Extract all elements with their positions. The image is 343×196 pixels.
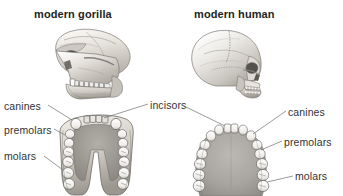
leader-canines-right bbox=[253, 111, 286, 134]
gorilla-skull-lateral-art bbox=[56, 29, 131, 99]
title-modern-gorilla: modern gorilla bbox=[34, 8, 112, 20]
leader-molars-right bbox=[267, 176, 293, 182]
label-premolars-human: premolars bbox=[284, 136, 332, 148]
label-molars-gorilla: molars bbox=[4, 150, 36, 162]
title-modern-human: modern human bbox=[194, 8, 275, 20]
label-canines-gorilla: canines bbox=[4, 100, 41, 112]
leader-incisors-left bbox=[104, 104, 148, 118]
leader-canines-left bbox=[48, 105, 72, 120]
comparative-dentition-figure: modern gorilla modern human canines prem… bbox=[0, 0, 343, 196]
label-incisors: incisors bbox=[150, 99, 186, 111]
leader-premolars-right bbox=[261, 141, 282, 150]
leader-molars-left bbox=[44, 156, 63, 170]
figure-artwork bbox=[0, 0, 343, 196]
gorilla-mandible-occlusal-art bbox=[60, 115, 133, 195]
leader-incisors-right bbox=[186, 107, 225, 126]
label-canines-human: canines bbox=[288, 106, 325, 118]
human-skull-lateral-art bbox=[192, 30, 261, 98]
human-palate-occlusal-art bbox=[193, 124, 269, 196]
label-molars-human: molars bbox=[295, 170, 327, 182]
label-premolars-gorilla: premolars bbox=[4, 124, 52, 136]
